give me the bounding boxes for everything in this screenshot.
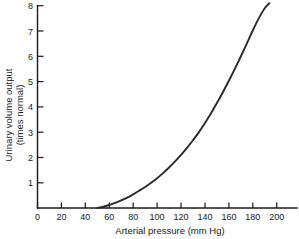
chart-svg: 8 7 6 5 4 3 2 1 0 20 40 60 80 [0, 0, 299, 239]
x-tick-label-140: 140 [197, 212, 212, 222]
y-tick-label-3: 3 [28, 128, 33, 138]
y-tick-label-5: 5 [28, 77, 33, 87]
y-tick-label-7: 7 [28, 27, 33, 37]
x-tick-label-180: 180 [245, 212, 260, 222]
y-axis-title-line2: (times normal) [14, 85, 25, 146]
y-tick-label-1: 1 [28, 178, 33, 188]
data-curve-urinary-volume-output [97, 3, 269, 208]
x-tick-label-80: 80 [128, 212, 138, 222]
y-axis-title-line1: Urinary volume output [3, 68, 14, 161]
x-tick-label-0: 0 [35, 212, 40, 222]
x-tick-label-40: 40 [80, 212, 90, 222]
x-axis-title: Arterial pressure (mm Hg) [115, 225, 224, 236]
y-tick-label-4: 4 [28, 102, 33, 112]
x-tick-label-200: 200 [269, 212, 284, 222]
x-tick-label-100: 100 [150, 212, 165, 222]
y-tick-label-8: 8 [28, 1, 33, 11]
y-tick-label-2: 2 [28, 153, 33, 163]
x-tick-label-20: 20 [56, 212, 66, 222]
x-tick-label-60: 60 [104, 212, 114, 222]
x-tick-label-120: 120 [173, 212, 188, 222]
y-tick-label-6: 6 [28, 52, 33, 62]
chart-canvas: 8 7 6 5 4 3 2 1 0 20 40 60 80 [0, 0, 299, 239]
x-tick-label-160: 160 [221, 212, 236, 222]
chart-figure: 8 7 6 5 4 3 2 1 0 20 40 60 80 [0, 0, 299, 239]
